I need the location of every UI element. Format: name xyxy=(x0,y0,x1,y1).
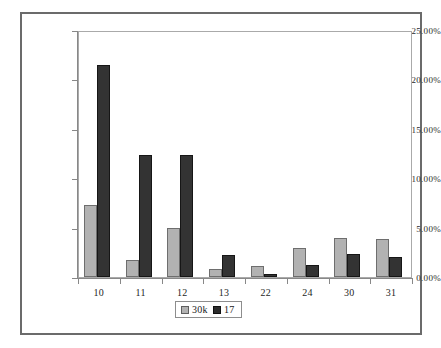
x-axis-label-31: 31 xyxy=(370,287,412,298)
bar-chart: 25.00% 20.00% 15.00% 10.00% 5.00% 0.00% … xyxy=(0,0,441,348)
legend-item-series-a: 30k xyxy=(181,304,208,315)
bar-17-24 xyxy=(306,265,319,277)
x-tick-mark xyxy=(370,279,371,284)
bar-30k-10 xyxy=(84,205,97,277)
bar-17-22 xyxy=(264,274,277,277)
x-tick-mark xyxy=(245,279,246,284)
x-tick-mark xyxy=(329,279,330,284)
x-tick-mark xyxy=(287,279,288,284)
x-tick-mark xyxy=(162,279,163,284)
x-axis-label-10: 10 xyxy=(78,287,120,298)
legend-item-series-b: 17 xyxy=(213,304,235,315)
x-axis-label-30: 30 xyxy=(329,287,371,298)
dark-gray-swatch-icon xyxy=(213,306,221,314)
bar-17-11 xyxy=(139,155,152,277)
bar-30k-30 xyxy=(334,238,347,277)
x-tick-mark xyxy=(120,279,121,284)
x-axis-label-22: 22 xyxy=(245,287,287,298)
bars-container xyxy=(79,32,411,277)
bar-17-10 xyxy=(97,65,110,277)
x-axis-label-13: 13 xyxy=(203,287,245,298)
chart-legend: 30k 17 xyxy=(175,301,242,318)
x-axis-label-11: 11 xyxy=(120,287,162,298)
bar-17-12 xyxy=(180,155,193,278)
x-axis-label-12: 12 xyxy=(162,287,204,298)
legend-label-series-b: 17 xyxy=(224,304,235,315)
chart-screenshot: 25.00% 20.00% 15.00% 10.00% 5.00% 0.00% … xyxy=(0,0,441,348)
bar-30k-31 xyxy=(376,239,389,277)
bar-30k-13 xyxy=(209,269,222,277)
bar-30k-22 xyxy=(251,266,264,277)
x-tick-mark xyxy=(78,279,79,284)
x-tick-mark xyxy=(412,279,413,284)
bar-17-13 xyxy=(222,255,235,277)
legend-label-series-a: 30k xyxy=(192,304,208,315)
x-tick-mark xyxy=(203,279,204,284)
bar-30k-12 xyxy=(167,228,180,277)
light-gray-swatch-icon xyxy=(181,306,189,314)
plot-area xyxy=(78,31,412,278)
bar-17-31 xyxy=(389,257,402,277)
bar-30k-11 xyxy=(126,260,139,277)
x-axis-label-24: 24 xyxy=(287,287,329,298)
bar-17-30 xyxy=(347,254,360,277)
bar-30k-24 xyxy=(293,248,306,277)
